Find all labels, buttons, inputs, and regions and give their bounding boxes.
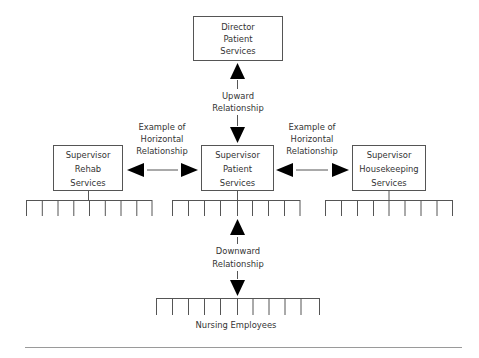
relationship-label: Downward — [216, 246, 260, 256]
box-line: Rehab — [75, 164, 101, 174]
arrow-left-icon — [276, 163, 293, 177]
nursing-employees-label: Nursing Employees — [196, 320, 277, 330]
rehab-staff-comb — [26, 190, 152, 216]
box-line: Supervisor — [66, 150, 111, 160]
comb-teeth — [27, 200, 153, 216]
horizontal-relationship-left: Example of Horizontal Relationship — [127, 122, 198, 177]
arrow-right-icon — [332, 163, 349, 177]
housekeeping-staff-comb — [325, 190, 453, 216]
director-patient-services-box: Director Patient Services — [194, 17, 283, 61]
downward-relationship: Downward Relationship — [212, 219, 263, 296]
relationship-label: Upward — [222, 91, 254, 101]
arrow-left-icon — [127, 163, 144, 177]
arrow-down-icon — [230, 127, 245, 143]
box-line: Housekeeping — [359, 164, 418, 174]
org-chart-diagram: Director Patient Services Upward Relatio… — [0, 0, 479, 358]
box-line: Supervisor — [367, 150, 412, 160]
horizontal-relationship-right: Example of Horizontal Relationship — [276, 122, 349, 177]
patient-staff-comb — [172, 190, 300, 216]
relationship-label: Relationship — [286, 146, 337, 156]
arrow-right-icon — [181, 163, 198, 177]
box-line: Patient — [223, 34, 253, 44]
box-line: Patient — [223, 164, 253, 174]
supervisor-housekeeping-services-box: Supervisor Housekeeping Services — [353, 146, 426, 191]
arrow-down-icon — [230, 280, 245, 296]
box-line: Services — [371, 178, 406, 188]
relationship-label: Relationship — [212, 259, 263, 269]
box-line: Director — [221, 22, 255, 32]
relationship-label: Horizontal — [141, 134, 184, 144]
comb-teeth — [157, 298, 320, 315]
supervisor-patient-services-box: Supervisor Patient Services — [202, 146, 274, 191]
arrow-up-icon — [230, 63, 245, 79]
relationship-label: Relationship — [212, 103, 263, 113]
arrow-up-icon — [230, 219, 245, 235]
relationship-label: Example of — [288, 122, 336, 132]
comb-teeth — [173, 200, 301, 216]
box-line: Services — [70, 178, 105, 188]
relationship-label: Relationship — [136, 146, 187, 156]
supervisor-rehab-services-box: Supervisor Rehab Services — [54, 146, 123, 191]
relationship-label: Example of — [138, 122, 186, 132]
relationship-label: Horizontal — [291, 134, 334, 144]
box-line: Services — [220, 178, 255, 188]
nursing-employees-comb: Nursing Employees — [156, 298, 320, 330]
comb-teeth — [326, 200, 453, 216]
box-line: Services — [220, 46, 255, 56]
upward-relationship: Upward Relationship — [212, 63, 263, 143]
box-line: Supervisor — [215, 150, 260, 160]
